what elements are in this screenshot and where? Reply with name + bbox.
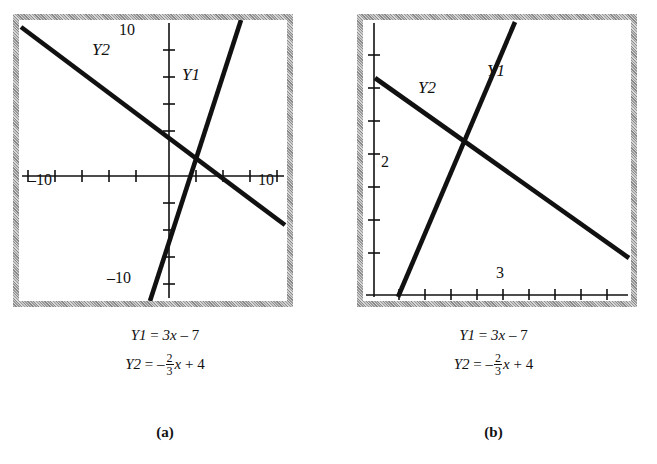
equation-y2-sign-a: – bbox=[157, 356, 165, 372]
equation-y2-eq-a: = bbox=[145, 356, 153, 372]
equation-y2-variable-a: x bbox=[175, 356, 182, 372]
equation-y2-frac-denominator-a: 3 bbox=[166, 365, 174, 377]
panel-b: 2 3 Y2 Y1 Y1 = 3x – 7 Y2 = –23x + 4 (b) bbox=[330, 0, 657, 464]
equation-y2-fraction-a: 23 bbox=[166, 352, 174, 377]
equation-y1-a: Y1 = 3x – 7 bbox=[0, 327, 330, 344]
equation-y1-rhs-a: 3x bbox=[163, 327, 177, 343]
graph-svg-a bbox=[19, 20, 287, 301]
equation-y2-b: Y2 = –23x + 4 bbox=[330, 353, 657, 378]
caption-equations-a: Y1 = 3x – 7 Y2 = –23x + 4 bbox=[0, 327, 330, 378]
equation-y2-fraction-b: 23 bbox=[494, 352, 502, 377]
curve-label-y1-b: Y1 bbox=[487, 62, 505, 79]
axis-label-x-left-a: –10 bbox=[28, 172, 52, 188]
equation-y2-a: Y2 = –23x + 4 bbox=[0, 353, 330, 378]
caption-equations-b: Y1 = 3x – 7 Y2 = –23x + 4 bbox=[330, 327, 657, 378]
curve-label-y1-a: Y1 bbox=[182, 66, 200, 83]
line-y1-a bbox=[150, 20, 241, 301]
panel-sublabel-b: (b) bbox=[330, 424, 657, 441]
equation-y2-eq-b: = bbox=[473, 356, 481, 372]
figure-two-graph-panels: 10 –10 10 –10 Y2 Y1 Y1 = 3x – 7 Y2 = –23… bbox=[0, 0, 657, 464]
axis-label-y-tick-b: 2 bbox=[381, 154, 389, 170]
curve-label-y2-a: Y2 bbox=[92, 41, 110, 58]
equation-y2-tail-a: + 4 bbox=[185, 356, 205, 372]
equation-y2-frac-numerator-b: 2 bbox=[494, 352, 502, 365]
equation-y1-eq-b: = bbox=[479, 327, 487, 343]
panel-sublabel-a: (a) bbox=[0, 424, 330, 441]
equation-y1-const-b: – 7 bbox=[509, 327, 528, 343]
equation-y2-lhs-a: Y2 bbox=[125, 356, 141, 372]
equation-y1-lhs-b: Y1 bbox=[459, 327, 475, 343]
equation-y2-lhs-b: Y2 bbox=[454, 356, 470, 372]
equation-y2-frac-numerator-a: 2 bbox=[166, 352, 174, 365]
equation-y1-const-a: – 7 bbox=[180, 327, 199, 343]
graph-screen-a[interactable] bbox=[13, 14, 293, 307]
axis-label-y-bottom-a: –10 bbox=[107, 270, 131, 286]
axis-label-y-top-a: 10 bbox=[119, 22, 135, 38]
equation-y1-rhs-b: 3x bbox=[491, 327, 505, 343]
panel-a: 10 –10 10 –10 Y2 Y1 Y1 = 3x – 7 Y2 = –23… bbox=[0, 0, 330, 464]
equation-y1-lhs-a: Y1 bbox=[131, 327, 147, 343]
axis-label-x-tick-b: 3 bbox=[496, 265, 504, 281]
line-y2-b bbox=[375, 78, 629, 258]
equation-y2-sign-b: – bbox=[486, 356, 494, 372]
equation-y2-tail-b: + 4 bbox=[514, 356, 534, 372]
equation-y2-frac-denominator-b: 3 bbox=[494, 365, 502, 377]
equation-y1-b: Y1 = 3x – 7 bbox=[330, 327, 657, 344]
equation-y1-eq-a: = bbox=[150, 327, 158, 343]
curve-label-y2-b: Y2 bbox=[418, 79, 436, 96]
line-y2-a bbox=[21, 27, 285, 225]
axis-label-x-right-a: 10 bbox=[258, 172, 274, 188]
equation-y2-variable-b: x bbox=[503, 356, 510, 372]
